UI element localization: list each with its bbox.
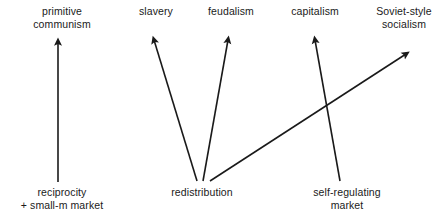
node-label-line: communism: [0, 18, 124, 31]
node-label-line: + small-m market: [0, 199, 124, 212]
arrow-redistribution-to-slavery: [154, 40, 197, 181]
node-label-line: self-regulating: [287, 186, 407, 199]
arrow-redistribution-to-soviet-style-socialism: [210, 54, 406, 181]
node-label-reciprocity-small-m-market: reciprocity + small-m market: [0, 186, 124, 212]
arrow-redistribution-to-feudalism: [203, 40, 228, 181]
node-label-line: redistribution: [142, 186, 262, 199]
diagram-canvas: primitive communism slavery feudalism ca…: [0, 0, 442, 222]
node-label-self-regulating-market: self-regulating market: [287, 186, 407, 212]
node-label-line: Soviet-style: [344, 5, 442, 18]
node-label-redistribution: redistribution: [142, 186, 262, 199]
node-label-line: market: [287, 199, 407, 212]
node-label-soviet-style-socialism: Soviet-style socialism: [344, 5, 442, 31]
node-label-line: socialism: [344, 18, 442, 31]
node-label-line: reciprocity: [0, 186, 124, 199]
